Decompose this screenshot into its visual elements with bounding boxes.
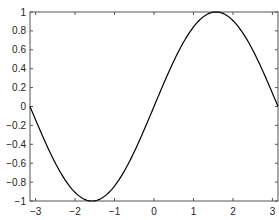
y-tick-label: 1 — [20, 7, 26, 18]
sine-chart: −3−2−10123 −1−0.8−0.6−0.4−0.200.20.40.60… — [0, 0, 279, 220]
y-tick-label: −0.8 — [6, 177, 26, 188]
x-tick-label: −1 — [109, 206, 121, 217]
y-tick-label: −0.6 — [6, 158, 26, 169]
x-axis: −3−2−10123 — [30, 12, 276, 217]
y-tick-label: −0.4 — [6, 139, 26, 150]
x-tick-label: 2 — [230, 206, 236, 217]
x-tick-label: 0 — [151, 206, 157, 217]
sine-curve — [30, 12, 278, 201]
y-tick-label: 0.4 — [12, 63, 26, 74]
y-tick-label: −1 — [15, 196, 27, 207]
y-axis: −1−0.8−0.6−0.4−0.200.20.40.60.81 — [6, 7, 278, 207]
y-tick-label: 0 — [20, 101, 26, 112]
x-tick-label: 1 — [191, 206, 197, 217]
y-tick-label: −0.2 — [6, 120, 26, 131]
y-tick-label: 0.2 — [12, 82, 26, 93]
y-tick-label: 0.6 — [12, 44, 26, 55]
x-tick-label: −2 — [69, 206, 81, 217]
plot-area: −3−2−10123 −1−0.8−0.6−0.4−0.200.20.40.60… — [0, 0, 279, 220]
y-tick-label: 0.8 — [12, 25, 26, 36]
x-tick-label: 3 — [270, 206, 276, 217]
x-tick-label: −3 — [30, 206, 42, 217]
